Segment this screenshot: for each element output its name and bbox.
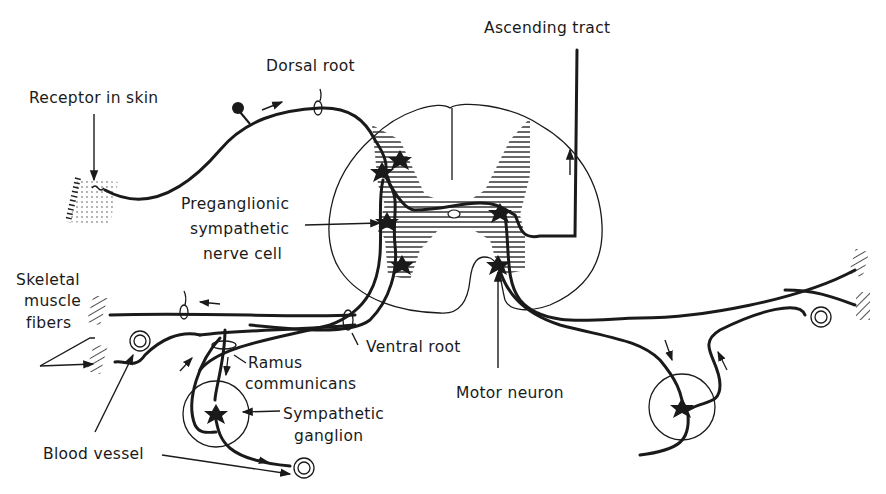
label-blood-vessel: Blood vessel [43, 445, 144, 463]
label-skeletal-2: muscle [24, 292, 81, 310]
label-ventral-root: Ventral root [366, 338, 461, 356]
label-receptor-in-skin: Receptor in skin [29, 89, 158, 107]
label-ramus-1: Ramus [248, 354, 302, 372]
label-ramus-2: communicans [245, 375, 356, 393]
label-preganglionic-1: Preganglionic [181, 195, 289, 213]
skin-receptor [68, 178, 118, 225]
label-preganglionic-3: nerve cell [203, 245, 282, 263]
label-preganglionic-2: sympathetic [190, 220, 289, 238]
label-skeletal-1: Skeletal [16, 271, 80, 289]
blood-vessel-right [811, 307, 831, 327]
label-sympathetic-1: Sympathetic [283, 405, 384, 423]
label-ascending-tract: Ascending tract [484, 19, 610, 37]
label-sympathetic-2: ganglion [294, 427, 363, 445]
label-skeletal-3: fibers [26, 314, 71, 332]
label-motor-neuron: Motor neuron [456, 384, 564, 402]
spinal-cord-diagram: Receptor in skin Dorsal root Ascending t… [0, 0, 886, 494]
label-dorsal-root: Dorsal root [266, 57, 355, 75]
sensory-cell-body [232, 102, 244, 114]
